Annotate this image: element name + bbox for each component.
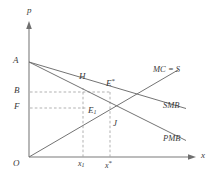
- point-label-J: J: [113, 119, 117, 128]
- externality-diagram: [0, 0, 217, 184]
- curve-label-smb: SMB: [163, 101, 180, 110]
- x-axis-arrow: [188, 154, 196, 160]
- x-tick-xstar: x*: [105, 160, 112, 170]
- y-axis-arrow: [26, 21, 32, 29]
- point-label-E1: E1: [88, 106, 97, 115]
- point-label-E1-subscript: 1: [94, 109, 97, 115]
- origin-label: O: [13, 159, 20, 168]
- x-tick-x1-subscript: 1: [82, 162, 85, 168]
- mc-s-curve: [29, 70, 178, 157]
- x-tick-xstar-superscript: *: [109, 159, 113, 167]
- y-axis-label: p: [27, 6, 32, 15]
- curve-label-pmb: PMB: [163, 134, 180, 143]
- point-label-H: H: [79, 72, 86, 81]
- x-axis-label: x: [201, 151, 205, 160]
- curve-label-mc-s: MC = S: [153, 65, 180, 74]
- y-label-F: F: [14, 102, 20, 111]
- y-label-A: A: [13, 56, 19, 65]
- point-label-Estar-superscript: *: [112, 77, 116, 85]
- x-tick-x1: x1: [78, 160, 85, 168]
- point-label-Estar: E*: [106, 78, 115, 88]
- y-label-B: B: [14, 86, 20, 95]
